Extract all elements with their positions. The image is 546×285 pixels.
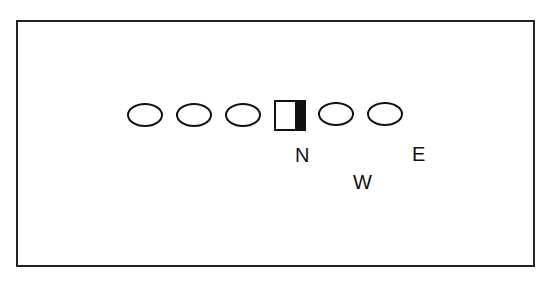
offensive-lineman-1 <box>127 103 163 127</box>
center-square <box>274 100 306 131</box>
label-n: N <box>295 145 309 165</box>
label-w: W <box>353 172 372 192</box>
offensive-lineman-2 <box>176 103 212 127</box>
diagram-frame <box>16 20 535 267</box>
offensive-lineman-6 <box>367 102 403 126</box>
center-fill <box>295 102 304 129</box>
offensive-lineman-5 <box>318 102 354 126</box>
offensive-lineman-3 <box>225 103 261 127</box>
label-e: E <box>412 144 425 164</box>
